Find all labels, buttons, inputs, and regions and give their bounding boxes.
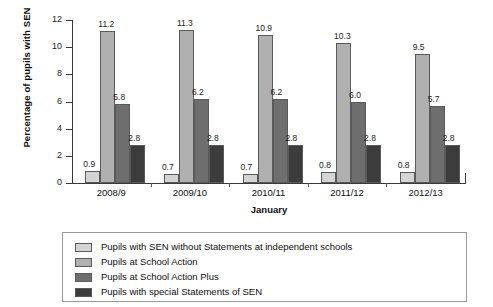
y-tick-label: 0 — [30, 178, 62, 187]
bar-value-label: 0.8 — [398, 161, 410, 170]
legend-label: Pupils with special Statements of SEN — [101, 287, 262, 297]
y-tick-label: 8 — [30, 69, 62, 78]
bar-value-label: 2.8 — [364, 134, 376, 143]
bar[interactable] — [415, 54, 430, 183]
bar[interactable] — [164, 174, 179, 184]
bar-value-label: 11.3 — [177, 19, 193, 28]
bar[interactable] — [243, 174, 258, 184]
y-axis-title: Percentage of pupils with SEN — [21, 0, 32, 166]
bar-value-label: 6.2 — [192, 88, 204, 97]
legend-swatch-icon — [75, 288, 92, 297]
legend-swatch-icon — [75, 273, 92, 282]
plot-area: 0.911.25.82.80.711.36.22.80.710.96.22.80… — [72, 20, 465, 183]
bar-value-label: 0.7 — [241, 163, 253, 172]
bar-value-label: 9.5 — [413, 43, 425, 52]
legend-item[interactable]: Pupils at School Action Plus — [75, 270, 219, 284]
y-tick-label: 2 — [30, 151, 62, 160]
bar-value-label: 5.8 — [113, 93, 125, 102]
bar[interactable] — [366, 145, 381, 183]
legend-label: Pupils at School Action Plus — [101, 272, 219, 282]
bar-chart: Percentage of pupils with SEN 024681012 … — [0, 0, 493, 307]
y-tick-label: 4 — [30, 124, 62, 133]
chart-legend: Pupils with SEN without Statements at in… — [62, 232, 467, 302]
bar-value-label: 2.8 — [443, 134, 455, 143]
x-tick-mark — [386, 183, 387, 187]
legend-swatch-icon — [75, 243, 92, 252]
legend-item[interactable]: Pupils at School Action — [75, 255, 198, 269]
y-tick-label: 10 — [30, 42, 62, 51]
bar-value-label: 6.2 — [271, 88, 283, 97]
bar[interactable] — [445, 145, 460, 183]
x-category-label: 2011/12 — [308, 188, 387, 198]
bar[interactable] — [400, 172, 415, 183]
bar[interactable] — [430, 106, 445, 183]
bar[interactable] — [321, 172, 336, 183]
legend-item[interactable]: Pupils with special Statements of SEN — [75, 285, 262, 299]
bar-value-label: 2.8 — [207, 134, 219, 143]
y-tick-label: 12 — [30, 15, 62, 24]
bar-value-label: 11.2 — [98, 20, 114, 29]
y-tick-label: 6 — [30, 97, 62, 106]
legend-swatch-icon — [75, 258, 92, 267]
x-category-label: 2009/10 — [151, 188, 230, 198]
bar-group: 0.710.96.22.8 — [243, 20, 303, 183]
x-category-label: 2010/11 — [229, 188, 308, 198]
bar[interactable] — [179, 30, 194, 183]
bar-group: 0.810.36.02.8 — [321, 20, 381, 183]
bar[interactable] — [209, 145, 224, 183]
x-category-label: 2012/13 — [386, 188, 465, 198]
bar-value-label: 0.9 — [83, 160, 95, 169]
legend-label: Pupils with SEN without Statements at in… — [101, 242, 352, 252]
x-tick-mark — [308, 183, 309, 187]
x-tick-mark — [151, 183, 152, 187]
y-tick-mark — [66, 183, 72, 184]
bar-value-label: 10.3 — [334, 32, 351, 41]
bar-value-label: 5.7 — [428, 95, 440, 104]
bar-group: 0.911.25.82.8 — [85, 20, 145, 183]
bar[interactable] — [258, 35, 273, 183]
bar[interactable] — [130, 145, 145, 183]
bar[interactable] — [85, 171, 100, 183]
bar-value-label: 2.8 — [286, 134, 298, 143]
legend-item[interactable]: Pupils with SEN without Statements at in… — [75, 240, 352, 254]
bar-group: 0.711.36.22.8 — [164, 20, 224, 183]
bar-value-label: 10.9 — [256, 24, 273, 33]
bar-value-label: 6.0 — [349, 91, 361, 100]
legend-label: Pupils at School Action — [101, 257, 198, 267]
x-category-label: 2008/9 — [72, 188, 151, 198]
bar[interactable] — [115, 104, 130, 183]
bar[interactable] — [288, 145, 303, 183]
bar[interactable] — [336, 43, 351, 183]
bar-value-label: 2.8 — [128, 134, 140, 143]
x-axis-title: January — [72, 204, 466, 215]
bar[interactable] — [100, 31, 115, 183]
bar-group: 0.89.55.72.8 — [400, 20, 460, 183]
bar-value-label: 0.7 — [162, 163, 174, 172]
bar-value-label: 0.8 — [319, 161, 331, 170]
x-tick-mark — [229, 183, 230, 187]
x-axis-line — [72, 183, 466, 184]
x-axis-end-tick — [465, 173, 466, 184]
